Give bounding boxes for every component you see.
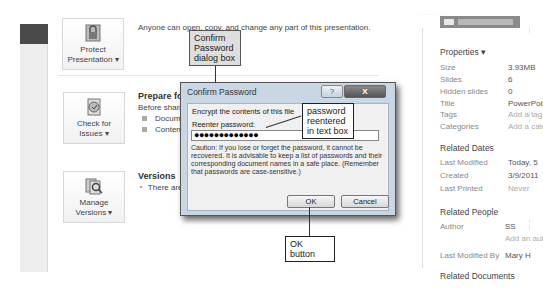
bullet-icon: [142, 127, 147, 132]
related-dates-header: Related Dates: [440, 143, 494, 153]
prop-label: Size: [440, 63, 456, 72]
callout-connector: [215, 66, 216, 83]
prop-value: 0: [508, 87, 512, 96]
versions-label-1: Manage: [64, 198, 124, 208]
properties-separator: [422, 28, 423, 268]
protect-label-1: Protect: [63, 45, 123, 55]
nav-active-item: [20, 24, 48, 44]
confirm-password-dialog: Confirm Password ? X Encrypt the content…: [180, 82, 396, 216]
inspect-document-icon: [84, 97, 104, 117]
date-value: Today, 5: [508, 158, 538, 167]
prop-value[interactable]: Add a category: [508, 122, 543, 131]
close-button[interactable]: X: [344, 85, 386, 98]
screenshot-stage: Protect Presentation ▾ Anyone can open, …: [0, 0, 543, 295]
last-modified-by-label: Last Modified By: [440, 251, 499, 260]
prop-value: 6: [508, 75, 512, 84]
ok-button[interactable]: OK: [287, 195, 335, 208]
issues-label-1: Check for: [64, 119, 124, 129]
author-value[interactable]: SS: [505, 222, 516, 231]
date-label: Created: [440, 171, 468, 180]
prop-label: Hidden slides: [440, 87, 488, 96]
versions-label-2: Versions ▾: [64, 208, 124, 218]
protect-presentation-button[interactable]: Protect Presentation ▾: [62, 18, 124, 70]
check-for-issues-button[interactable]: Check for Issues ▾: [63, 92, 125, 144]
toolbar-field: [458, 19, 513, 25]
prop-value[interactable]: Add a tag: [508, 110, 542, 119]
prop-value: 3.93MB: [508, 63, 536, 72]
encrypt-heading: Encrypt the contents of this file: [192, 107, 294, 116]
dialog-title: Confirm Password: [187, 87, 256, 97]
prop-label: Tags: [440, 110, 457, 119]
protect-label-2: Presentation ▾: [63, 55, 123, 65]
date-value: Never: [508, 184, 529, 193]
versions-title: Versions: [138, 171, 176, 181]
callout-arrow: [309, 207, 310, 236]
prop-label: Title: [440, 99, 455, 108]
versions-icon: [84, 176, 104, 196]
properties-header[interactable]: Properties ▾: [440, 47, 486, 57]
protect-description: Anyone can open, copy, and change any pa…: [138, 23, 370, 32]
reenter-label: Reenter password:: [192, 120, 255, 129]
cancel-button[interactable]: Cancel: [341, 195, 389, 208]
properties-toolbar: [440, 16, 520, 28]
author-label: Author: [440, 222, 464, 231]
related-documents-header: Related Documents: [440, 271, 515, 281]
date-value: 3/9/2011: [508, 171, 539, 180]
last-modified-by-value: Mary H: [505, 251, 531, 260]
help-button[interactable]: ?: [321, 85, 343, 98]
toolbar-icon: [444, 19, 454, 25]
password-callout: password reentered in text box: [302, 103, 354, 139]
ok-button-callout: OK button: [285, 236, 335, 262]
prop-value[interactable]: PowerPoint: [508, 99, 543, 108]
manage-versions-button[interactable]: Manage Versions ▾: [63, 171, 125, 223]
prop-label: Slides: [440, 75, 462, 84]
prop-label: Categories: [440, 122, 479, 131]
bullet-icon: [142, 116, 147, 121]
lock-icon: [83, 23, 103, 43]
dialog-box-callout: Confirm Password dialog box: [189, 30, 241, 66]
versions-info-icon: ◔: [138, 183, 143, 192]
backstage-nav-strip: [20, 24, 48, 272]
caution-text: Caution: If you lose or forget the passw…: [191, 144, 383, 176]
section-divider: [58, 75, 378, 76]
date-label: Last Modified: [440, 158, 488, 167]
add-author-link[interactable]: Add an author: [505, 234, 543, 243]
date-label: Last Printed: [440, 184, 483, 193]
related-people-header: Related People: [440, 207, 498, 217]
issues-label-2: Issues ▾: [64, 129, 124, 139]
